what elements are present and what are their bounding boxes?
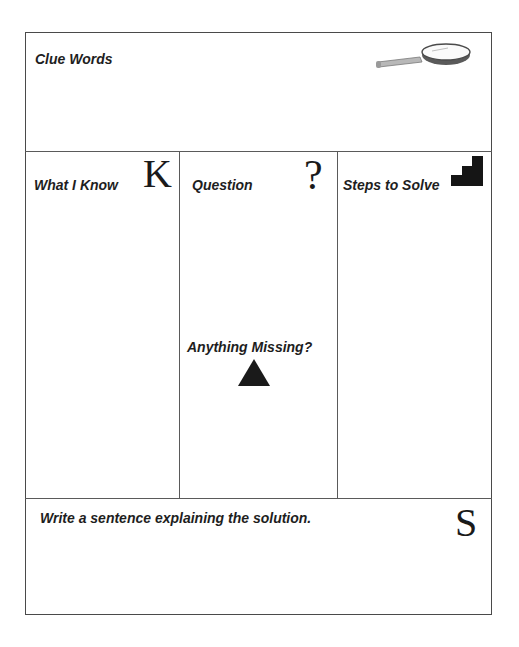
clue-words-label: Clue Words: [35, 51, 113, 67]
solution-label: Write a sentence explaining the solution…: [40, 510, 311, 526]
solution-section[interactable]: Write a sentence explaining the solution…: [26, 499, 491, 614]
triangle-icon: [238, 359, 270, 386]
what-i-know-label: What I Know: [34, 177, 118, 193]
what-i-know-section[interactable]: What I Know K: [26, 152, 178, 497]
clue-words-section[interactable]: Clue Words: [26, 33, 491, 150]
anything-missing-label: Anything Missing?: [187, 339, 312, 355]
magnifying-glass-icon: [376, 40, 471, 70]
question-label: Question: [192, 177, 253, 193]
stairs-icon: [451, 156, 483, 186]
question-section[interactable]: Question ? Anything Missing?: [180, 152, 336, 497]
steps-to-solve-label: Steps to Solve: [343, 177, 439, 193]
s-letter-icon: S: [455, 503, 477, 543]
question-mark-icon: ?: [304, 154, 323, 196]
k-letter-icon: K: [143, 154, 172, 194]
steps-to-solve-section[interactable]: Steps to Solve: [338, 152, 491, 497]
